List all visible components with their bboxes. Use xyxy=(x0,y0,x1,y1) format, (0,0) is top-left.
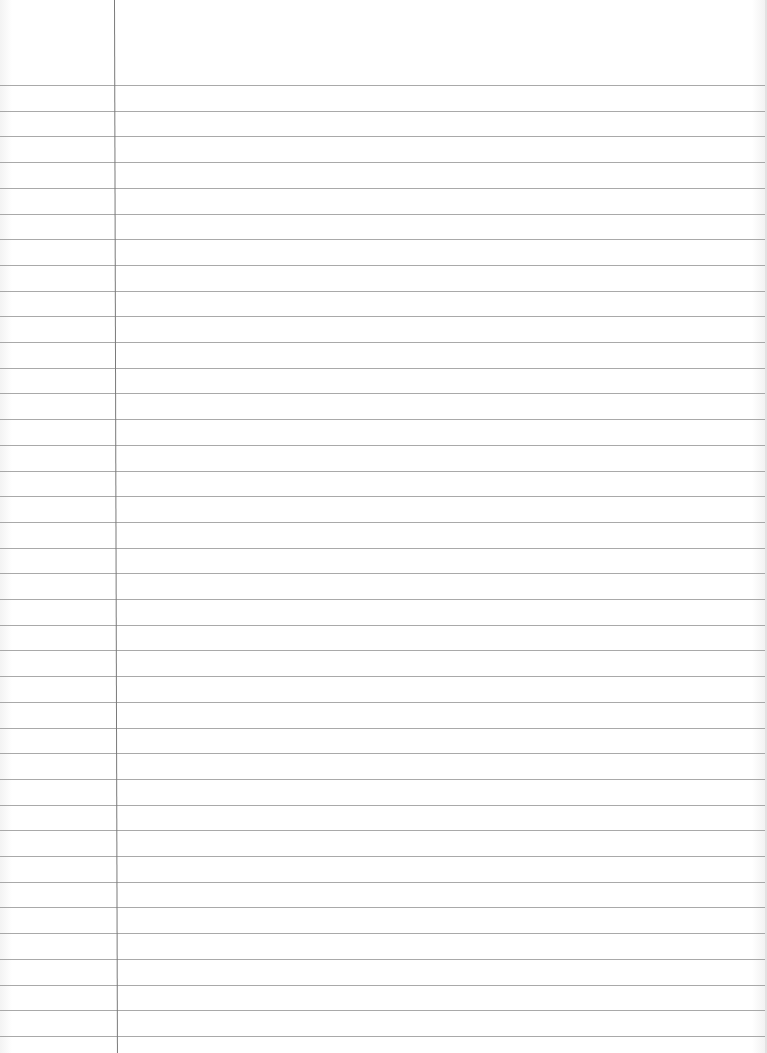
ruled-line xyxy=(0,753,765,754)
ruled-line xyxy=(0,856,765,857)
ruled-line xyxy=(0,959,765,960)
ruled-line xyxy=(0,830,765,831)
ruled-line xyxy=(0,650,765,651)
ruled-line xyxy=(0,1036,765,1037)
ruled-line xyxy=(0,933,765,934)
ruled-line xyxy=(0,676,765,677)
ruled-line xyxy=(0,1010,765,1011)
ruled-line xyxy=(0,779,765,780)
ruled-line xyxy=(0,728,765,729)
ruled-line xyxy=(0,805,765,806)
margin-line xyxy=(114,0,118,1053)
lined-paper-sheet xyxy=(0,0,767,1053)
ruled-line xyxy=(0,907,765,908)
ruled-line xyxy=(0,882,765,883)
ruled-line xyxy=(0,985,765,986)
ruled-line xyxy=(0,702,765,703)
